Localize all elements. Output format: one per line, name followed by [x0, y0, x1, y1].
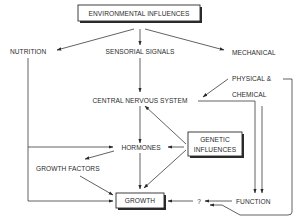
- node-sensorial-signals: SENSORIAL SIGNALS: [106, 48, 175, 55]
- node-hormones: HORMONES: [121, 144, 161, 151]
- node-function: FUNCTION: [236, 198, 271, 205]
- edge-hormones-growthfactors: [85, 151, 114, 159]
- edge-physical-cns: [203, 79, 228, 97]
- node-influences: INFLUENCES: [194, 146, 237, 153]
- node-central-nervous-system: CENTRAL NERVOUS SYSTEM: [93, 97, 188, 104]
- node-mechanical: MECHANICAL: [232, 49, 276, 56]
- genetic-box: GENETIC INFLUENCES: [188, 132, 244, 158]
- edge-genetic-growth: [144, 150, 186, 188]
- environmental-box: ENVIRONMENTAL INFLUENCES: [78, 5, 202, 23]
- node-growth: GROWTH: [125, 197, 156, 204]
- node-genetic: GENETIC: [200, 136, 230, 143]
- node-physical: PHYSICAL &: [232, 75, 272, 82]
- node-nutrition: NUTRITION: [10, 48, 47, 55]
- edges: [28, 29, 292, 215]
- edge-env-nutrition: [57, 29, 134, 50]
- growth-box: GROWTH: [116, 193, 166, 210]
- node-growth-factors: GROWTH FACTORS: [36, 165, 100, 172]
- node-question: ?: [197, 198, 201, 205]
- edge-growthfactors-growth: [80, 176, 113, 195]
- growth-influence-diagram: ENVIRONMENTAL INFLUENCES GENETIC INFLUEN…: [0, 0, 302, 218]
- node-environmental-influences: ENVIRONMENTAL INFLUENCES: [89, 10, 190, 17]
- node-chemical: CHEMICAL: [232, 91, 267, 98]
- edge-genetic-cns: [145, 106, 186, 144]
- edge-env-mechanical: [145, 29, 224, 50]
